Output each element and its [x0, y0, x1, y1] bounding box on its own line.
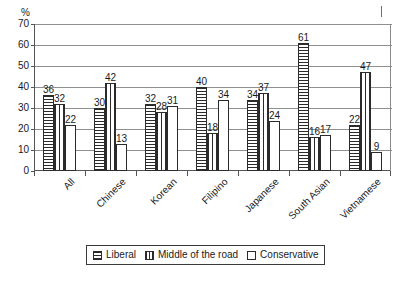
- bar-value-label: 18: [207, 123, 218, 133]
- bar: 24: [269, 121, 280, 171]
- bar: 34: [218, 100, 229, 171]
- bar-value-label: 22: [65, 115, 76, 125]
- y-axis-unit-label: %: [21, 8, 30, 18]
- bar-value-label: 37: [258, 83, 269, 93]
- bar-value-label: 30: [94, 98, 105, 108]
- bar: 22: [65, 125, 76, 171]
- y-tick-label-60: 60: [18, 40, 29, 50]
- grouped-bar-chart: % 010203040506070 3632223042133228314018…: [0, 0, 402, 283]
- x-axis-label-text: Vietnamese: [337, 176, 382, 221]
- legend-label: Liberal: [106, 250, 136, 260]
- bar-value-label: 34: [247, 90, 258, 100]
- bar-value-label: 17: [320, 125, 331, 135]
- bar-value-label: 9: [374, 142, 380, 152]
- y-tick-label-10: 10: [18, 145, 29, 155]
- bar-value-label: 42: [105, 73, 116, 83]
- bar-value-label: 32: [54, 94, 65, 104]
- x-axis-label-text: Korean: [148, 176, 179, 207]
- bar-value-label: 36: [43, 85, 54, 95]
- bar-value-label: 61: [298, 33, 309, 43]
- horizontal-hatch-swatch: [93, 251, 102, 260]
- bar: 18: [207, 133, 218, 171]
- y-tick-label-40: 40: [18, 82, 29, 92]
- bar-group: 322831: [145, 24, 178, 171]
- bar-value-label: 13: [116, 134, 127, 144]
- bar-group: 343724: [247, 24, 280, 171]
- bar-group: 401834: [196, 24, 229, 171]
- bar: 37: [258, 93, 269, 171]
- bar: 47: [360, 72, 371, 171]
- y-tick-label-70: 70: [18, 19, 29, 29]
- x-axis-label-text: All: [61, 176, 77, 192]
- bar: 42: [105, 83, 116, 171]
- vertical-hatch-swatch: [145, 251, 154, 260]
- bar-group: 363222: [43, 24, 76, 171]
- corner-tick-artifact: [381, 6, 382, 17]
- y-tick-label-20: 20: [18, 124, 29, 134]
- y-tick-label-50: 50: [18, 61, 29, 71]
- x-axis-label-text: Chinese: [94, 176, 128, 210]
- bars-layer: 3632223042133228314018343437246116172247…: [34, 24, 391, 171]
- legend-item[interactable]: Liberal: [93, 250, 136, 260]
- bar-group: 304213: [94, 24, 127, 171]
- empty-swatch: [247, 251, 256, 260]
- x-axis-label-text: Filipino: [199, 176, 229, 206]
- bar: 13: [116, 144, 127, 171]
- bar-value-label: 24: [269, 111, 280, 121]
- bar: 9: [371, 152, 382, 171]
- bar-value-label: 28: [156, 102, 167, 112]
- y-tick-label-0: 0: [23, 166, 29, 176]
- legend-item[interactable]: Middle of the road: [145, 250, 238, 260]
- bar-value-label: 34: [218, 90, 229, 100]
- bar: 30: [94, 108, 105, 171]
- x-axis-label-text: Japanese: [242, 176, 280, 214]
- legend-label: Conservative: [260, 250, 318, 260]
- bar-value-label: 22: [349, 115, 360, 125]
- chart-legend: LiberalMiddle of the roadConservative: [86, 245, 325, 265]
- bar-value-label: 32: [145, 94, 156, 104]
- bar: 32: [54, 104, 65, 171]
- bar: 17: [320, 135, 331, 171]
- bar: 28: [156, 112, 167, 171]
- bar-value-label: 40: [196, 77, 207, 87]
- bar-value-label: 16: [309, 127, 320, 137]
- y-tick-label-30: 30: [18, 103, 29, 113]
- x-axis-label-text: South Asian: [286, 176, 332, 222]
- legend-item[interactable]: Conservative: [247, 250, 318, 260]
- bar-value-label: 47: [360, 62, 371, 72]
- bar: 31: [167, 106, 178, 171]
- bar-value-label: 31: [167, 96, 178, 106]
- x-axis-labels: AllChineseKoreanFilipinoJapaneseSouth As…: [34, 176, 391, 236]
- bar: 16: [309, 137, 320, 171]
- bar: 36: [43, 95, 54, 171]
- legend-label: Middle of the road: [158, 250, 238, 260]
